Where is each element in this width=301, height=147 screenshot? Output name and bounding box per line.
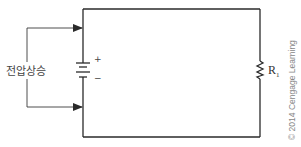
battery-negative-sign: − xyxy=(94,73,102,83)
resistor-label: R xyxy=(268,63,276,77)
resistor-subscript: 1 xyxy=(276,71,280,79)
resistor-r1: R 1 xyxy=(257,61,280,79)
circuit-loop xyxy=(83,9,260,137)
voltage-rise-label: 전압상승 xyxy=(6,65,46,78)
voltage-rise-indicator: 전압상승 xyxy=(6,28,82,107)
copyright-notice: © 2014 Cengage Learning xyxy=(287,40,297,140)
battery-positive-sign: + xyxy=(94,54,102,64)
battery-symbol: + − xyxy=(76,54,102,83)
circuit-canvas: + − 전압상승 R 1 © 2014 Cengage Learning xyxy=(0,0,301,147)
resistor-zigzag xyxy=(257,61,263,79)
circuit-diagram: + − 전압상승 R 1 © 2014 Cengage Learning xyxy=(0,0,301,147)
